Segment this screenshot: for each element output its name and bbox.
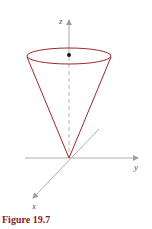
x-axis xyxy=(33,129,99,198)
cone-left-edge xyxy=(27,57,69,158)
cone-right-edge xyxy=(69,57,111,158)
z-axis-label: z xyxy=(58,16,63,26)
figure-caption: Figure 19.7 xyxy=(2,214,50,225)
cone-figure: z y x xyxy=(0,0,152,229)
center-point xyxy=(67,53,71,57)
y-axis-label: y xyxy=(133,162,138,172)
x-axis-label: x xyxy=(31,201,36,211)
